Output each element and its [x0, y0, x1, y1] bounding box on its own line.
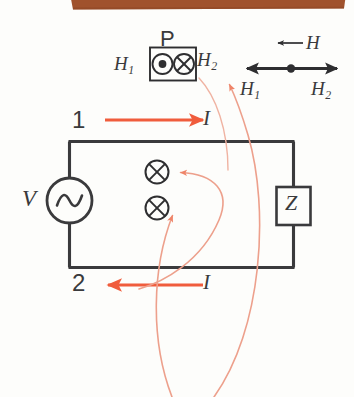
load-label: Z — [285, 192, 297, 214]
annotation-curves — [139, 78, 260, 397]
source-label: V — [22, 187, 36, 210]
current-label-bottom: I — [203, 272, 210, 293]
probe-box-group — [150, 48, 196, 81]
legend-left-label: H1 — [240, 79, 260, 101]
field-legend-group — [247, 43, 337, 73]
origin-dot-icon — [287, 64, 295, 72]
probe-right-field-subscript: 2 — [211, 60, 217, 73]
legend-right-subscript: 2 — [325, 89, 331, 102]
dot-in-circle-icon — [153, 54, 173, 74]
legend-right-label: H2 — [311, 79, 331, 101]
legend-right-symbol: H — [311, 78, 325, 99]
flux-symbol-upper — [146, 161, 169, 184]
ac-source-icon — [47, 178, 92, 223]
probe-left-field-label: H1 — [114, 54, 134, 76]
circuit-figure: P H1 H2 H H1 H2 1 2 I I V Z — [0, 0, 354, 397]
top-edge-bar — [70, 0, 346, 10]
node-label-bottom: 2 — [72, 271, 85, 295]
probe-right-field-label: H2 — [197, 50, 217, 72]
circuit-loop — [69, 142, 295, 268]
figure-canvas — [0, 0, 354, 397]
node-label-top: 1 — [72, 108, 85, 132]
probe-box-label: P — [160, 28, 175, 50]
legend-left-symbol: H — [240, 78, 254, 99]
flux-symbol-lower — [146, 197, 169, 220]
current-label-top: I — [203, 108, 210, 129]
cross-in-circle-icon — [174, 54, 194, 74]
probe-left-field-symbol: H — [114, 53, 128, 74]
probe-right-field-symbol: H — [197, 49, 211, 70]
probe-left-field-subscript: 1 — [128, 64, 134, 77]
legend-field-label: H — [306, 33, 320, 52]
legend-left-subscript: 1 — [254, 89, 260, 102]
